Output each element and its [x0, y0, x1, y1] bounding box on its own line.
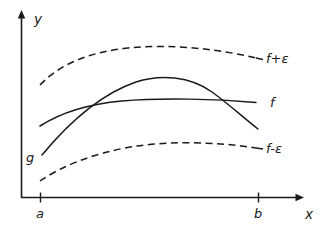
x-axis-label: x: [304, 206, 314, 222]
leader-f-minus-epsilon: [256, 148, 263, 149]
curve-g: [42, 77, 258, 155]
curve-label-g: g: [26, 150, 34, 165]
curve-f-minus-epsilon: [40, 143, 256, 181]
x-axis-arrowhead: [296, 194, 305, 201]
x-tick-label-b: b: [254, 206, 262, 221]
leader-f-plus-epsilon: [256, 58, 263, 60]
y-axis-arrowhead: [18, 10, 25, 19]
x-tick-label-a: a: [36, 206, 44, 221]
curve-label-f-minus-epsilon: f-ε: [266, 141, 282, 156]
y-axis-label: y: [33, 11, 43, 27]
figure-canvas: y x a b f+ε f f-ε g: [0, 0, 323, 229]
function-approximation-figure: y x a b f+ε f f-ε g: [0, 0, 323, 229]
curve-label-f-plus-epsilon: f+ε: [266, 51, 289, 66]
curve-label-f: f: [270, 95, 277, 110]
